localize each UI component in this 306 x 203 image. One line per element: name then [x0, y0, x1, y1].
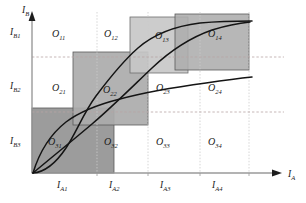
y-tick-label-b3: IB3 — [10, 137, 20, 148]
cell-label-o34: O34 — [208, 137, 222, 150]
cell-label-o32: O32 — [104, 137, 118, 150]
cell-label-o22: O22 — [103, 85, 117, 98]
y-axis-label: IB — [22, 6, 29, 17]
cell-label-o21: O21 — [52, 83, 66, 96]
cell-label-o11: O11 — [52, 29, 65, 42]
cell-label-o14: O14 — [208, 29, 222, 42]
y-tick-label-b1: IB1 — [10, 28, 20, 39]
cell-label-o12: O12 — [104, 29, 118, 42]
cell-label-o31: O31 — [48, 137, 62, 150]
x-axis-label: IA — [288, 170, 295, 181]
x-tick-label-a3: IA3 — [160, 181, 170, 192]
cell-label-o24: O24 — [208, 83, 222, 96]
x-tick-label-a4: IA4 — [212, 181, 222, 192]
x-tick-label-a1: IA1 — [57, 181, 67, 192]
cell-label-o13: O13 — [155, 31, 169, 44]
cell-label-o33: O33 — [156, 137, 170, 150]
y-tick-label-b2: IB2 — [10, 82, 20, 93]
partition-figure — [0, 0, 306, 203]
cell-label-o23: O23 — [156, 83, 170, 96]
x-tick-label-a2: IA2 — [109, 181, 119, 192]
